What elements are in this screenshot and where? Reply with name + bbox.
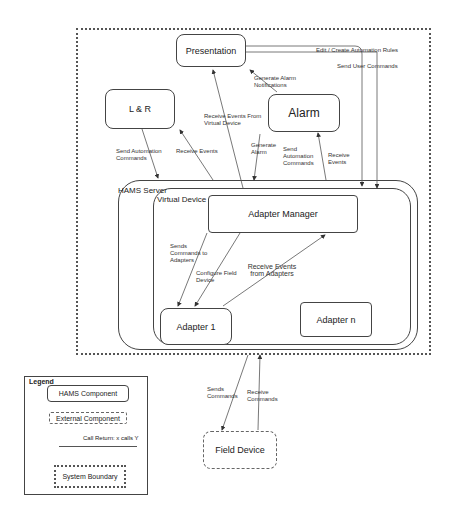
sends-cmds-label: Sends Commands: [207, 386, 237, 400]
recv-events-lr-label: Receive Events: [176, 148, 218, 155]
receive-cmds-label: Receive Commands: [247, 389, 281, 403]
legend-arrow-line: [59, 446, 137, 447]
edit-rules-label: Edit / Create Automation Rules: [316, 47, 398, 54]
legend: Legend HAMS Component External Component…: [24, 376, 148, 495]
configure-field-label: Configure Field Device: [196, 270, 238, 284]
send-auto-cmds-lr-label: Send Automation Commands: [116, 148, 164, 162]
send-user-cmds-label: Send User Commands: [337, 63, 398, 70]
legend-system-boundary-label: System Boundary: [62, 473, 117, 480]
send-auto-cmds-alarm-label: Send Automation Commands: [283, 146, 319, 167]
legend-system-boundary: System Boundary: [54, 465, 126, 488]
gen-alarm-notif-label: Generate Alarm Notifications: [254, 75, 304, 89]
gen-alarm-label: Generate Alarm: [251, 142, 279, 156]
legend-hams-component: HAMS Component: [47, 385, 129, 402]
sends-cmds-adapters-label: Sends Commands to Adapters: [170, 243, 210, 264]
recv-events-adapters-label: Receive Events from Adapters: [246, 263, 298, 277]
legend-title: Legend: [29, 378, 54, 385]
legend-external-component: External Component: [49, 412, 127, 424]
legend-call-return: Call Return: x calls Y: [83, 435, 139, 441]
recv-events-vd-label: Receive Events From Virtual Device: [204, 113, 264, 127]
legend-external-component-label: External Component: [56, 415, 120, 422]
recv-events-alarm-label: Receive Events: [328, 152, 356, 166]
legend-hams-component-label: HAMS Component: [59, 390, 117, 397]
